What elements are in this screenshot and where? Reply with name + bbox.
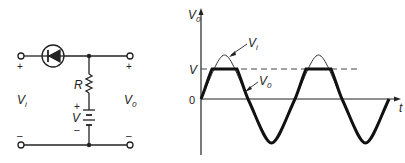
output-plus-sign: + [126,61,132,72]
output-minus-sign: – [126,130,132,141]
x-axis-label: t [399,101,403,115]
input-minus-sign: – [17,130,23,141]
output-waveform-v0 [201,69,389,143]
input-plus-sign: + [17,61,23,72]
y-axis-arrow-icon [199,8,204,15]
diagram-canvas: + – + – Vi V0 R + V – V0 V 0 t Vi V0 [0,0,405,163]
resistor-icon [86,74,92,93]
resistor-label: R [74,78,83,92]
output-terminal-top [127,53,133,59]
battery-minus-sign: – [74,124,80,135]
y-axis-label: V0 [188,8,201,24]
output-voltage-label: V0 [124,93,137,109]
input-terminal-top [18,53,24,59]
v0-curve-label: V0 [259,74,272,90]
input-terminal-bottom [18,142,24,148]
waveform-graph [199,8,402,155]
diode-icon [42,45,64,67]
level-label: V [189,63,198,77]
battery-label: V [72,111,81,125]
origin-label: 0 [189,94,195,106]
input-voltage-label: Vi [17,93,27,109]
vi-pointer-arrow-icon [229,51,236,57]
vi-curve-label: Vi [248,36,258,52]
output-terminal-bottom [127,142,133,148]
battery-icon [83,110,95,125]
